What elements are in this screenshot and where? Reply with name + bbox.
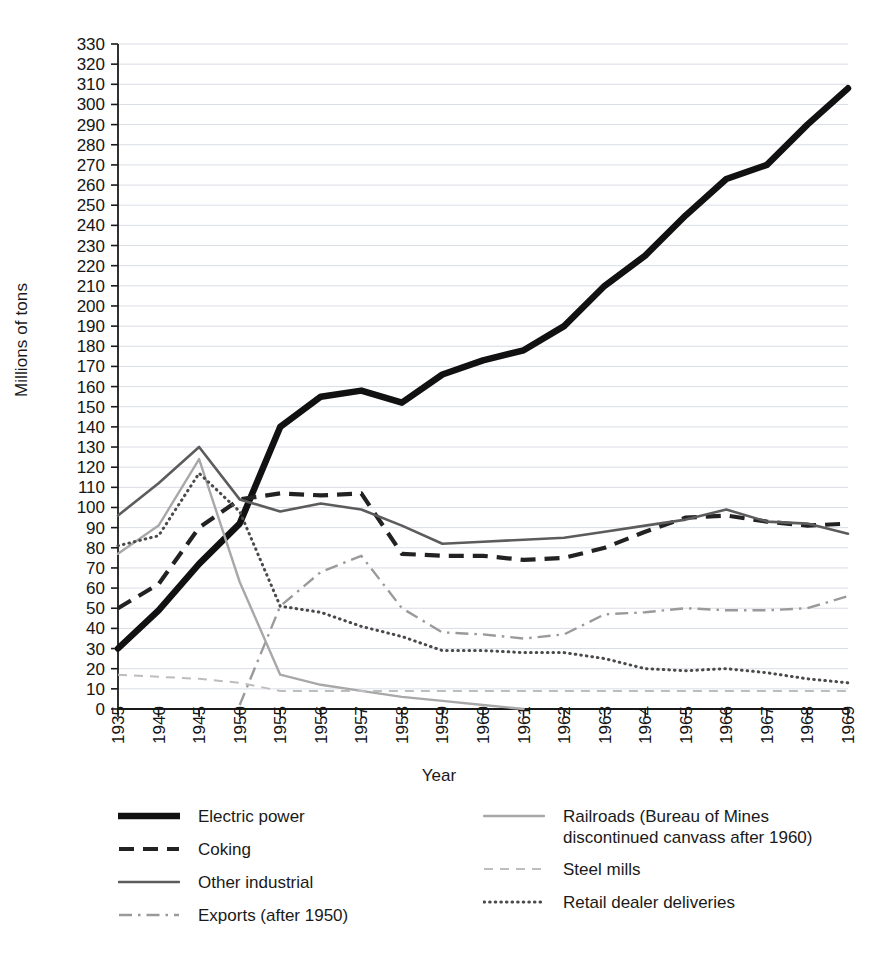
x-tick-label: 1960 [474, 706, 493, 744]
x-tick-label: 1969 [839, 706, 858, 744]
y-tick-label: 170 [77, 357, 105, 376]
y-tick-label: 20 [86, 660, 105, 679]
y-tick-label: 70 [86, 559, 105, 578]
y-tick-label: 30 [86, 640, 105, 659]
x-tick-label: 1968 [798, 706, 817, 744]
x-axis-title: Year [0, 766, 878, 786]
y-tick-label: 60 [86, 579, 105, 598]
chart-figure: Millions of tons 01020304050607080901001… [0, 0, 878, 963]
x-tick-label: 1959 [433, 706, 452, 744]
legend-item-label: Coking [198, 839, 251, 860]
line-chart-svg: 0102030405060708090100110120130140150160… [0, 0, 878, 800]
x-tick-label: 1966 [717, 706, 736, 744]
y-tick-label: 240 [77, 216, 105, 235]
legend-line-swatch-icon [483, 806, 545, 826]
legend-item-label: Steel mills [563, 859, 640, 880]
x-tick-label: 1961 [515, 706, 534, 744]
x-tick-label: 1962 [555, 706, 574, 744]
legend-line-swatch-icon [118, 872, 180, 892]
y-tick-label: 250 [77, 196, 105, 215]
legend-column-left: Electric powerCokingOther industrialExpo… [118, 806, 418, 938]
series-line-electric-power [118, 88, 848, 648]
y-tick-label: 80 [86, 539, 105, 558]
y-tick-label: 300 [77, 95, 105, 114]
x-tick-label: 1967 [758, 706, 777, 744]
y-tick-label: 120 [77, 458, 105, 477]
x-tick-label: 1956 [312, 706, 331, 744]
x-tick-label: 1963 [596, 706, 615, 744]
legend-item-label: Railroads (Bureau of Mines discontinued … [563, 806, 813, 848]
y-tick-label: 110 [78, 478, 105, 497]
x-tick-label: 1940 [150, 706, 169, 744]
series-line-exports-after-1950 [240, 556, 848, 705]
y-tick-label: 220 [77, 257, 105, 276]
y-tick-label: 150 [77, 398, 105, 417]
x-tick-label: 1945 [190, 706, 209, 744]
x-tick-label: 1965 [677, 706, 696, 744]
y-tick-label: 200 [77, 297, 105, 316]
legend-item-label: Retail dealer deliveries [563, 892, 735, 913]
y-tick-label: 230 [77, 237, 105, 256]
y-tick-label: 320 [77, 55, 105, 74]
y-tick-label: 40 [86, 619, 105, 638]
y-tick-label: 330 [77, 35, 105, 54]
y-tick-label: 160 [77, 378, 105, 397]
legend-item[interactable]: Coking [118, 839, 418, 861]
legend-item-label: Other industrial [198, 872, 313, 893]
y-tick-label: 260 [77, 176, 105, 195]
y-tick-label: 270 [77, 156, 105, 175]
legend-item-label: Electric power [198, 806, 305, 827]
y-tick-label: 290 [77, 116, 105, 135]
y-tick-label: 180 [77, 337, 105, 356]
legend-item[interactable]: Railroads (Bureau of Mines discontinued … [483, 806, 878, 848]
x-tick-label: 1964 [636, 706, 655, 744]
chart-legend: Electric powerCokingOther industrialExpo… [118, 806, 878, 956]
y-tick-label: 140 [77, 418, 105, 437]
legend-line-swatch-icon [483, 859, 545, 879]
y-tick-label: 190 [77, 317, 105, 336]
y-tick-label: 210 [77, 277, 105, 296]
legend-line-swatch-icon [118, 905, 180, 925]
series-line-coking [118, 493, 848, 608]
legend-item-label: Exports (after 1950) [198, 905, 348, 926]
legend-item[interactable]: Other industrial [118, 872, 418, 894]
y-tick-label: 50 [86, 599, 105, 618]
y-tick-label: 0 [96, 700, 105, 719]
x-tick-label: 1950 [231, 706, 250, 744]
y-tick-label: 280 [77, 136, 105, 155]
x-tick-label: 1935 [109, 706, 128, 744]
y-tick-label: 10 [86, 680, 105, 699]
plot-area: Millions of tons 01020304050607080901001… [0, 0, 878, 800]
y-tick-label: 90 [86, 519, 105, 538]
legend-item[interactable]: Exports (after 1950) [118, 905, 418, 927]
series-line-other-industrial [118, 447, 848, 544]
y-tick-label: 100 [77, 498, 105, 517]
y-tick-label: 310 [77, 75, 105, 94]
legend-line-swatch-icon [483, 892, 545, 912]
x-tick-label: 1958 [393, 706, 412, 744]
x-tick-label: 1955 [271, 706, 290, 744]
legend-column-right: Railroads (Bureau of Mines discontinued … [483, 806, 878, 925]
x-tick-label: 1957 [352, 706, 371, 744]
series-line-retail-dealer-deliveries [118, 473, 848, 683]
legend-line-swatch-icon [118, 839, 180, 859]
y-tick-label: 130 [77, 438, 105, 457]
legend-item[interactable]: Retail dealer deliveries [483, 892, 878, 914]
legend-item[interactable]: Steel mills [483, 859, 878, 881]
legend-line-swatch-icon [118, 806, 180, 826]
legend-item[interactable]: Electric power [118, 806, 418, 828]
